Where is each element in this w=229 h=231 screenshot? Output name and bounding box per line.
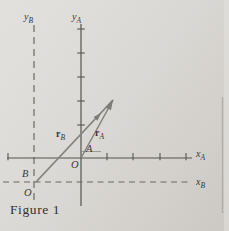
label-x-A: xA [195, 148, 205, 162]
label-origin-A: O [71, 159, 79, 170]
label-point-B: B [22, 168, 29, 179]
label-x-B: xB [195, 176, 205, 190]
label-y-A: yA [71, 11, 81, 25]
label-point-A: A [85, 143, 93, 154]
figure-canvas: rBrAyByAxAxBOABO [0, 0, 229, 231]
figure-caption: Figure 1 [10, 202, 60, 218]
vector-r-A-label: rA [95, 127, 104, 141]
scanned-figure-page: rBrAyByAxAxBOABO Figure 1 [0, 0, 229, 231]
vector-r-A-arrowhead-icon [105, 100, 113, 110]
vector-r-B-label: rB [56, 128, 65, 142]
label-origin-B: O [24, 187, 32, 198]
label-y-B: yB [23, 11, 33, 25]
